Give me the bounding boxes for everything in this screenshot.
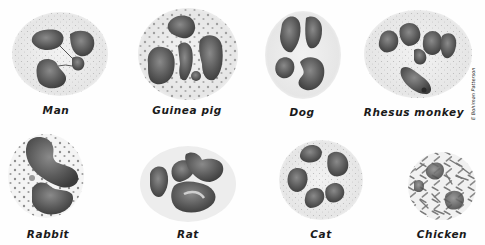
cell-man bbox=[8, 6, 112, 102]
cell-chicken bbox=[406, 150, 478, 222]
illustration-plate: Man Guinea pig Dog bbox=[0, 0, 485, 245]
label-chicken: Chicken bbox=[417, 228, 467, 240]
label-rhesus-monkey: Rhesus monkey bbox=[364, 106, 464, 118]
cell-rhesus-monkey bbox=[362, 6, 474, 102]
artist-signature: E Bohlman Patterson bbox=[470, 68, 476, 120]
label-dog: Dog bbox=[289, 106, 314, 118]
label-guinea-pig: Guinea pig bbox=[152, 104, 222, 116]
cell-rabbit bbox=[4, 132, 88, 220]
cell-cat bbox=[276, 136, 366, 224]
cell-guinea-pig bbox=[134, 4, 242, 104]
cell-rat bbox=[138, 144, 238, 224]
cell-dog bbox=[262, 8, 344, 102]
label-rat: Rat bbox=[177, 228, 199, 240]
label-rabbit: Rabbit bbox=[27, 228, 69, 240]
label-man: Man bbox=[43, 104, 70, 116]
label-cat: Cat bbox=[310, 228, 332, 240]
